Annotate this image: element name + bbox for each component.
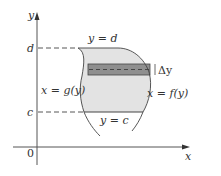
- d-label: d: [27, 42, 34, 55]
- type-ii-region-diagram: y x 0 d c y = d y = c x = g(y) x = f(y) …: [0, 0, 221, 176]
- y-axis-label: y: [27, 9, 35, 22]
- right-boundary-label: x = f(y): [147, 87, 188, 100]
- left-boundary-label: x = g(y): [41, 84, 85, 97]
- bottom-boundary-label: y = c: [99, 114, 129, 127]
- diagram-canvas: y x 0 d c y = d y = c x = g(y) x = f(y) …: [0, 0, 221, 176]
- delta-y-label: Δy: [158, 64, 173, 77]
- top-boundary-label: y = d: [87, 32, 117, 45]
- y-axis-arrow-icon: [35, 12, 40, 20]
- x-axis-arrow-icon: [182, 145, 190, 150]
- c-label: c: [27, 106, 33, 119]
- x-axis-label: x: [185, 150, 192, 163]
- origin-label: 0: [27, 147, 34, 160]
